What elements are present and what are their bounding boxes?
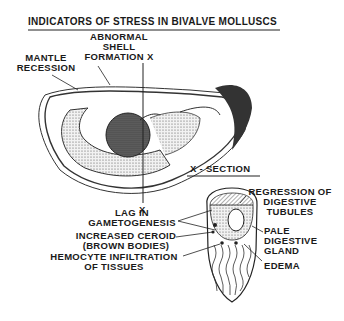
label-regression-tubules: REGRESSION OF DIGESTIVE TUBULES	[242, 187, 338, 217]
label-mantle-recession: MANTLE RECESSION	[14, 53, 78, 73]
label-line: (BROWN BODIES)	[74, 241, 178, 251]
label-hemocyte-infiltration: HEMOCYTE INFILTRATION OF TISSUES	[46, 252, 182, 272]
label-edema: EDEMA	[264, 261, 300, 271]
diagram-artwork	[0, 0, 344, 321]
cross-section-title: X - SECTION	[190, 164, 250, 174]
label-pale-digestive-gland: PALE DIGESTIVE GLAND	[264, 226, 317, 256]
label-line: FORMATION X	[74, 52, 164, 62]
diagram-title: INDICATORS OF STRESS IN BIVALVE MOLLUSCS	[28, 17, 277, 27]
label-line: RECESSION	[14, 63, 78, 73]
label-lag-gametogenesis: LAG IN GAMETOGENESIS	[86, 208, 178, 228]
label-line: TUBULES	[242, 207, 338, 217]
label-abnormal-shell: ABNORMAL SHELL FORMATION X	[74, 32, 164, 62]
label-line: GAMETOGENESIS	[86, 218, 178, 228]
label-increased-ceroid: INCREASED CEROID (BROWN BODIES)	[74, 231, 178, 251]
label-line: GLAND	[264, 246, 317, 256]
label-line: OF TISSUES	[46, 262, 182, 272]
